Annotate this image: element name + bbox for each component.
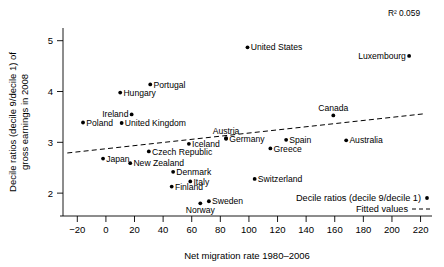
data-point-marker [170,185,174,189]
legend-item-decile-ratios-label: Decile ratios (decile 9/decile 1) [296,193,421,203]
data-point-label: Canada [318,103,348,113]
y-tick-label: 2 [48,188,53,199]
y-tick-label: 3 [48,137,53,148]
data-point-marker [224,137,228,141]
data-point-marker [148,83,152,87]
data-point-label: Germany [229,134,265,144]
chart-canvas: R² 0.059 2345 −2002040608010012014016018… [0,0,444,267]
r-squared-label: R² 0.059 [388,8,420,18]
data-point-marker [130,112,134,116]
data-point-marker [81,121,85,125]
y-axis-title-line1: Decile ratios (decile 9/decile 1) of [7,52,18,192]
data-point-marker [207,199,211,203]
data-point-marker [344,138,348,142]
data-point-label: Greece [274,144,302,154]
data-point-label: Norway [186,205,216,215]
data-point-marker [120,121,124,125]
data-point-marker [246,45,250,49]
y-axis-title: Decile ratios (decile 9/decile 1) of gro… [7,52,30,192]
data-point-marker [253,177,257,181]
data-point-label: United States [251,42,303,52]
data-point-marker [171,170,175,174]
data-point-marker [187,142,191,146]
y-axis-title-line2: gross earnings in 2008 [19,74,30,170]
y-tick-label: 5 [48,35,53,46]
data-point-label: United Kingdom [125,118,186,128]
data-point-marker [268,147,272,151]
data-point-marker [407,54,411,58]
data-point-label: Switzerland [258,174,303,184]
y-tick-label: 4 [48,86,53,97]
x-tick-label: 80 [215,224,226,235]
data-point-label: Portugal [153,80,185,90]
r-squared-annotation: R² 0.059 [388,8,420,18]
x-tick-label: 0 [103,224,108,235]
data-points: PolandJapanHungaryUnited KingdomIrelandN… [81,42,411,214]
data-point-marker [188,180,192,184]
legend-item-fitted-values-label: Fitted values [356,204,408,214]
x-tick-label: 120 [270,224,286,235]
y-axis-ticks: 2345 [48,35,63,198]
x-tick-label: 220 [413,224,429,235]
x-tick-label: 140 [298,224,314,235]
data-point-label: Luxembourg [358,51,406,61]
x-tick-label: 40 [158,224,169,235]
data-point-marker [118,91,122,95]
x-tick-label: 200 [384,224,400,235]
data-point-label: Denmark [176,167,212,177]
data-point-marker [147,150,151,154]
x-tick-label: 100 [241,224,257,235]
x-tick-label: −20 [69,224,85,235]
scatter-chart: R² 0.059 2345 −2002040608010012014016018… [0,0,444,267]
chart-legend: Decile ratios (decile 9/decile 1) Fitted… [296,193,433,214]
data-point-label: Australia [349,135,383,145]
data-point-marker [101,157,105,161]
x-tick-label: 60 [186,224,197,235]
data-point-label: Sweden [212,196,243,206]
x-tick-label: 20 [129,224,140,235]
data-point-label: Hungary [123,88,156,98]
legend-item-decile-ratios-marker [425,196,429,200]
data-point-marker [331,113,335,117]
data-point-label: Italy [193,177,209,187]
data-point-marker [128,161,132,165]
data-point-label: Iceland [192,139,220,149]
x-axis-title-label: Net migration rate 1980–2006 [184,250,310,261]
x-axis-title: Net migration rate 1980–2006 [184,250,310,261]
x-axis-ticks: −20020406080100120140160180200220 [69,216,428,235]
data-point-label: Japan [106,154,130,164]
data-point-label: Spain [289,135,311,145]
data-point-label: Ireland [102,109,128,119]
x-tick-label: 160 [327,224,343,235]
data-point-marker [284,138,288,142]
x-tick-label: 180 [355,224,371,235]
